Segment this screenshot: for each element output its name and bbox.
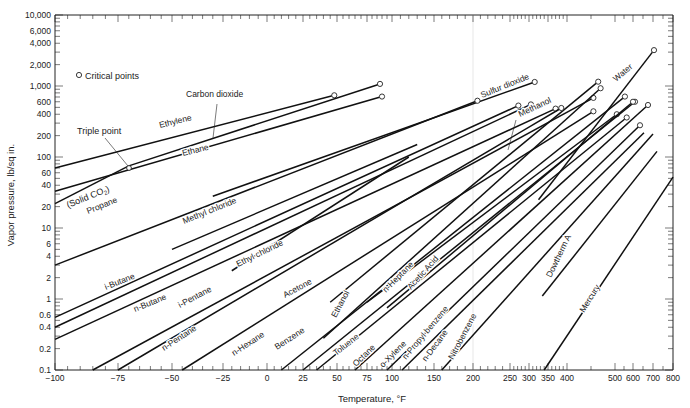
- x-tick-label: 150: [427, 373, 441, 383]
- x-tick-label: 25: [298, 373, 308, 383]
- series-label: Acetone: [281, 276, 313, 300]
- x-tick-label: 250: [503, 373, 517, 383]
- x-tick-label: 50: [332, 373, 342, 383]
- x-tick-label: 300: [522, 373, 536, 383]
- y-tick-label: 2,000: [30, 60, 52, 70]
- x-tick-label: 500: [608, 373, 622, 383]
- y-tick-label: 100: [37, 152, 51, 162]
- y-tick-label: 1: [46, 294, 51, 304]
- series-label: Benzene: [273, 325, 307, 352]
- series-line-i-pentane: [55, 109, 556, 340]
- series-label: n-Pentane: [160, 323, 199, 353]
- y-tick-label: 400: [37, 109, 51, 119]
- triple-point-leader: [105, 138, 128, 166]
- y-tick-label: 0.6: [39, 310, 51, 320]
- y-tick-label: 4: [46, 251, 51, 261]
- y-tick-label: 60: [42, 168, 52, 178]
- series-line-mercury: [544, 177, 673, 370]
- y-tick-label: 0.2: [39, 344, 51, 354]
- critical-point-icon: [622, 94, 627, 99]
- y-tick-label: 20: [42, 202, 52, 212]
- y-axis-title: Vapor pressure, lb/sq in.: [5, 144, 16, 246]
- series-line-ethane: [55, 97, 382, 192]
- x-tick-label: 800: [666, 373, 680, 383]
- x-tick-label: −75: [111, 373, 126, 383]
- x-tick-label: 200: [466, 373, 480, 383]
- critical-point-icon: [645, 102, 650, 107]
- series-label: Methyl chloride: [181, 195, 238, 226]
- series-label: Mercury: [577, 282, 602, 314]
- series-lines: [55, 48, 673, 370]
- x-tick-label: 75: [362, 373, 372, 383]
- critical-point-icon: [332, 93, 337, 98]
- x-tick-label: −50: [165, 373, 180, 383]
- series-line-ethanol: [323, 88, 600, 338]
- y-tick-label: 10,000: [25, 10, 51, 20]
- series-line-o-xylene: [355, 105, 648, 370]
- y-tick-label: 4,000: [30, 38, 52, 48]
- critical-point-icon: [596, 79, 601, 84]
- x-tick-label: 100: [385, 373, 399, 383]
- series-label: Methanol: [517, 95, 553, 119]
- critical-point-icon: [598, 86, 603, 91]
- y-tick-label: 10: [42, 223, 52, 233]
- x-tick-label: 600: [626, 373, 640, 383]
- series-label: Ethylene: [158, 112, 193, 130]
- x-tick-label: −100: [45, 373, 64, 383]
- critical-point-icon: [475, 98, 480, 103]
- x-tick-label: 400: [560, 373, 574, 383]
- critical-point-icon: [559, 105, 564, 110]
- critical-point-icon: [624, 115, 629, 120]
- critical-point-icon: [630, 99, 635, 104]
- series-label: Nitrobenzene: [446, 311, 479, 361]
- critical-point-icon: [532, 79, 537, 84]
- x-tick-label: 350: [541, 373, 555, 383]
- series-label: Carbon dioxide: [186, 89, 243, 99]
- co2-leader: [213, 104, 217, 138]
- series-line-nitrobenzene: [442, 134, 653, 370]
- critical-point-icon: [379, 94, 384, 99]
- critical-point-icon: [637, 123, 642, 128]
- critical-point-icon: [377, 81, 382, 86]
- legend-critical-point-icon: [76, 72, 81, 77]
- series-line-methyl-chloride: [172, 144, 417, 249]
- x-tick-label: 700: [646, 373, 660, 383]
- triple-point-marker-icon: [127, 166, 132, 171]
- critical-point-icon: [651, 48, 656, 53]
- series-line-octane: [317, 118, 627, 370]
- x-axis-title: Temperature, °F: [338, 393, 406, 404]
- series-line-benzene: [281, 97, 625, 370]
- legend-label: Critical points: [85, 71, 140, 81]
- annotations: Critical points Triple point (Solid CO2)…: [5, 71, 516, 404]
- series-label: n-Hexane: [230, 329, 267, 358]
- series-label: Ethane: [181, 142, 210, 158]
- y-tick-label: 6: [46, 239, 51, 249]
- y-tick-label: 0.4: [39, 322, 51, 332]
- y-tick-label: 2: [46, 273, 51, 283]
- series-label: Octane: [350, 342, 377, 368]
- y-tick-label: 600: [37, 97, 51, 107]
- x-tick-label: 0: [265, 373, 270, 383]
- vapor-pressure-chart: 0.10.20.40.61246102040601002004006001,00…: [0, 0, 690, 408]
- series-label: Ethanol: [329, 289, 351, 319]
- critical-point-icon: [591, 109, 596, 114]
- x-tick-label: −25: [216, 373, 231, 383]
- y-tick-label: 40: [42, 180, 52, 190]
- axes: 0.10.20.40.61246102040601002004006001,00…: [25, 10, 680, 383]
- y-tick-label: 1,000: [30, 81, 52, 91]
- series-label: i-Pentane: [176, 284, 213, 310]
- y-tick-label: 6,000: [30, 26, 52, 36]
- triple-point-label: Triple point: [77, 126, 122, 136]
- y-tick-label: 200: [37, 131, 51, 141]
